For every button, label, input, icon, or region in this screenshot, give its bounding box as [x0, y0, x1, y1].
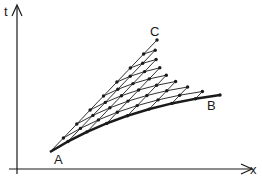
- mesh-node: [141, 62, 144, 65]
- mesh-line: [105, 89, 118, 102]
- mesh-line: [80, 115, 93, 128]
- mesh-node: [79, 127, 82, 130]
- mesh-line: [90, 102, 105, 110]
- mesh-node: [137, 88, 140, 91]
- mesh-node: [148, 77, 151, 80]
- mesh-line: [104, 89, 118, 96]
- mesh-node: [115, 80, 118, 83]
- mesh-node: [142, 52, 145, 55]
- mesh-node: [120, 94, 123, 97]
- mesh-line: [117, 76, 130, 82]
- mesh-node: [156, 98, 159, 101]
- mesh-node: [88, 108, 91, 111]
- mesh-node: [145, 94, 148, 97]
- point-b-label: B: [207, 98, 216, 113]
- mesh-line: [77, 115, 93, 124]
- mesh-line: [90, 96, 103, 110]
- mesh-nodes: [62, 38, 222, 143]
- mesh-node: [154, 49, 157, 52]
- mesh-node: [108, 106, 111, 109]
- mesh-node: [178, 94, 181, 97]
- mesh-node: [155, 84, 158, 87]
- axes: [9, 5, 252, 174]
- point-c-label: C: [150, 24, 159, 39]
- mesh-line: [63, 124, 76, 138]
- mesh-node: [104, 101, 107, 104]
- mesh-node: [143, 70, 146, 73]
- mesh-node: [129, 66, 132, 69]
- mesh-node: [102, 94, 105, 97]
- mesh-line: [93, 102, 105, 115]
- mesh-line: [98, 112, 117, 120]
- mesh-line: [117, 68, 130, 82]
- mesh-node: [131, 82, 134, 85]
- mesh-node: [201, 90, 204, 93]
- mesh-line: [104, 82, 117, 96]
- mesh-line: [147, 91, 167, 96]
- mesh-line: [93, 108, 110, 116]
- point-a-label: A: [54, 152, 63, 167]
- mesh-line: [98, 108, 110, 120]
- mesh-node: [165, 89, 168, 92]
- mesh-node: [126, 99, 129, 102]
- mesh-node: [129, 75, 132, 78]
- mesh-node: [186, 85, 189, 88]
- mesh-node: [158, 66, 161, 69]
- mesh-node: [62, 136, 65, 139]
- mesh-node: [91, 114, 94, 117]
- mesh-node: [154, 58, 157, 61]
- x-axis-label: x: [250, 162, 257, 177]
- mesh-node: [97, 118, 100, 121]
- characteristics-diagram: t x A B C: [0, 0, 262, 182]
- mesh-node: [116, 111, 119, 114]
- mesh-line: [105, 96, 121, 103]
- mesh-node: [174, 80, 177, 83]
- mesh-node: [136, 104, 139, 107]
- t-axis-label: t: [4, 4, 8, 19]
- mesh-line: [77, 110, 90, 124]
- characteristic-mesh: [50, 40, 220, 152]
- mesh-node: [165, 74, 168, 77]
- mesh-node: [116, 88, 119, 91]
- mesh-node: [75, 122, 78, 125]
